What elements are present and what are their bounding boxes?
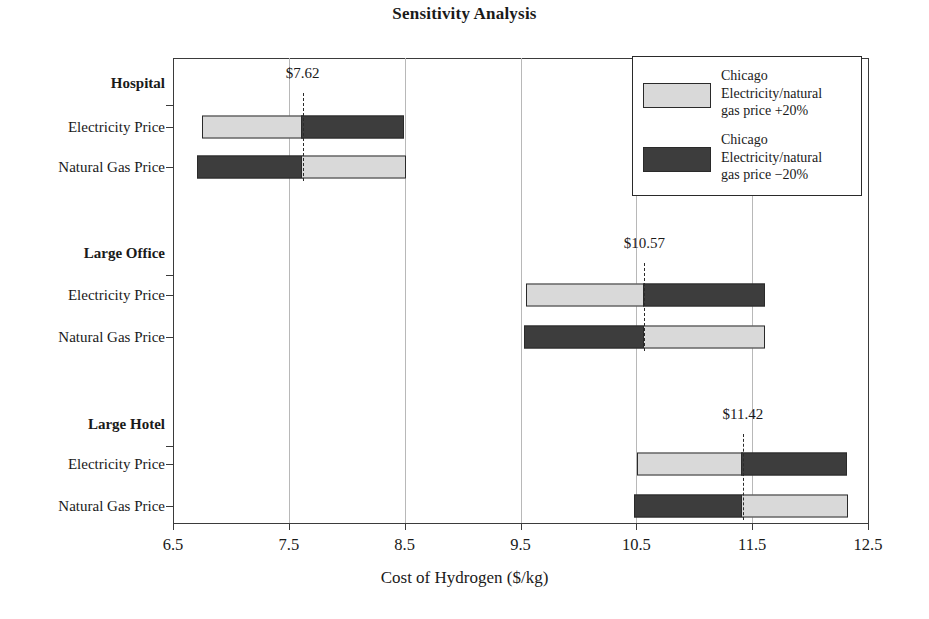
- x-tick-mark: [173, 523, 174, 530]
- sensitivity-chart: Sensitivity Analysis HospitalElectricity…: [0, 0, 929, 619]
- bar-segment-plus20: [301, 156, 405, 179]
- gridline: [521, 58, 522, 523]
- row-label-electricity-price: Electricity Price: [68, 287, 165, 304]
- gridline: [405, 58, 406, 523]
- y-tick-mark: [166, 167, 173, 168]
- y-axis-line: [173, 58, 174, 523]
- bar-segment-minus20: [524, 326, 644, 349]
- y-tick-mark: [166, 295, 173, 296]
- bar-segment-minus20: [643, 284, 765, 307]
- bar-segment-minus20: [741, 453, 847, 476]
- y-tick-mark: [166, 127, 173, 128]
- row-label-electricity-price: Electricity Price: [68, 456, 165, 473]
- y-tick-mark: [166, 275, 173, 276]
- x-tick-mark: [752, 523, 753, 530]
- group-label-large-hotel: Large Hotel: [88, 416, 165, 433]
- x-tick-mark: [405, 523, 406, 530]
- tornado-bar: [197, 156, 406, 179]
- bar-segment-minus20: [634, 495, 743, 518]
- plot-right-border: [868, 58, 869, 523]
- x-tick-label: 10.5: [622, 535, 651, 555]
- bar-segment-plus20: [643, 326, 765, 349]
- x-tick-mark: [868, 523, 869, 530]
- baseline-line: [743, 434, 744, 520]
- y-tick-mark: [166, 446, 173, 447]
- x-axis-title: Cost of Hydrogen ($/kg): [0, 568, 929, 588]
- x-tick-label: 11.5: [738, 535, 766, 555]
- y-tick-mark: [166, 506, 173, 507]
- bar-segment-plus20: [526, 284, 644, 307]
- bar-segment-plus20: [741, 495, 848, 518]
- baseline-line: [644, 263, 645, 351]
- group-label-large-office: Large Office: [84, 245, 165, 262]
- x-tick-label: 7.5: [279, 535, 300, 555]
- chart-legend: Chicago Electricity/natural gas price +2…: [632, 56, 862, 196]
- x-tick-label: 6.5: [163, 535, 184, 555]
- tornado-bar: [526, 284, 765, 307]
- x-tick-label: 8.5: [394, 535, 415, 555]
- bar-segment-minus20: [301, 116, 403, 139]
- row-label-natural-gas-price: Natural Gas Price: [58, 329, 165, 346]
- x-tick-mark: [289, 523, 290, 530]
- baseline-line: [303, 93, 304, 181]
- x-tick-label: 12.5: [854, 535, 883, 555]
- legend-item-plus20: Chicago Electricity/natural gas price +2…: [643, 67, 853, 120]
- y-tick-mark: [166, 105, 173, 106]
- legend-swatch-minus20: [643, 147, 711, 172]
- baseline-value-label: $11.42: [723, 406, 764, 423]
- legend-label-minus20: Chicago Electricity/natural gas price −2…: [721, 131, 822, 184]
- x-tick-label: 9.5: [510, 535, 531, 555]
- group-label-hospital: Hospital: [111, 75, 165, 92]
- tornado-bar: [634, 495, 848, 518]
- legend-item-minus20: Chicago Electricity/natural gas price −2…: [643, 131, 853, 184]
- category-label-column: HospitalElectricity PriceNatural Gas Pri…: [0, 0, 165, 619]
- bar-segment-plus20: [637, 453, 742, 476]
- x-tick-mark: [521, 523, 522, 530]
- y-tick-mark: [166, 464, 173, 465]
- baseline-value-label: $7.62: [286, 65, 320, 82]
- baseline-value-label: $10.57: [624, 235, 665, 252]
- row-label-electricity-price: Electricity Price: [68, 119, 165, 136]
- legend-label-plus20: Chicago Electricity/natural gas price +2…: [721, 67, 822, 120]
- bar-segment-plus20: [202, 116, 303, 139]
- row-label-natural-gas-price: Natural Gas Price: [58, 498, 165, 515]
- x-tick-mark: [636, 523, 637, 530]
- legend-swatch-plus20: [643, 83, 711, 108]
- y-tick-mark: [166, 337, 173, 338]
- bar-segment-minus20: [197, 156, 302, 179]
- row-label-natural-gas-price: Natural Gas Price: [58, 159, 165, 176]
